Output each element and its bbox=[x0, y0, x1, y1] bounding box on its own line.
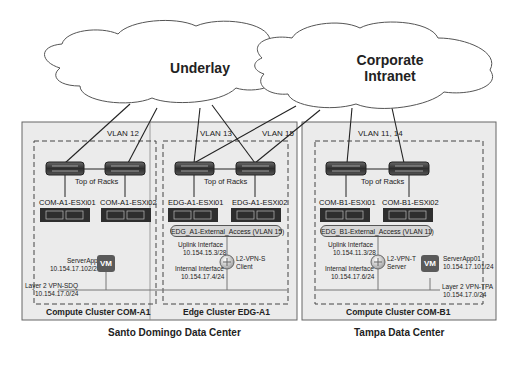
edg-a1-router-line1: L2-VPN-S bbox=[236, 255, 265, 263]
edg-a1-uplink-ip: 10.154.15.3/28 bbox=[183, 249, 226, 257]
vm-serverapp01-ip: 10.154.17.101/24 bbox=[443, 263, 494, 271]
tor-label-com-a1: Top of Racks bbox=[75, 177, 118, 186]
tor-label-com-b1: Top of Racks bbox=[361, 177, 404, 186]
vm-serverapp02-ip: 10.154.17.102/24 bbox=[50, 265, 101, 273]
corporate-intranet-label-line2: Intranet bbox=[340, 68, 440, 85]
edg-a1-internal-ip: 10.154.17.4/24 bbox=[181, 273, 224, 281]
host-com-a1-esxi01: COM-A1-ESXi01 bbox=[39, 198, 96, 207]
host-com-b1-esxi02: COM-B1-ESXi02 bbox=[382, 198, 439, 207]
com-b1-internal-ip: 10.154.17.6/24 bbox=[331, 273, 374, 281]
host-com-b1-esxi01: COM-B1-ESXi01 bbox=[319, 198, 376, 207]
cluster-name-com-b1: Compute Cluster COM-B1 bbox=[346, 307, 450, 317]
vlan-label-edg-a1-15: VLAN 15 bbox=[262, 129, 294, 138]
host-edg-a1-esxi02: EDG-A1-ESXi02 bbox=[232, 198, 287, 207]
vm-serverapp02-badge: VM bbox=[97, 255, 115, 272]
edg-a1-internal-label: Internal Interface bbox=[175, 265, 224, 273]
underlay-cloud-label: Underlay bbox=[150, 60, 250, 77]
tor-label-edg-a1: Top of Racks bbox=[204, 177, 247, 186]
com-b1-internal-label: Internal Interface bbox=[325, 265, 374, 273]
com-b1-uplink-ip: 10.154.11.3/28 bbox=[333, 249, 376, 257]
edg-a1-uplink-label: Uplink Interface bbox=[178, 241, 223, 249]
vlan-label-com-b1: VLAN 11, 14 bbox=[358, 129, 403, 138]
host-com-a1-esxi02: COM-A1-ESXi02 bbox=[100, 198, 157, 207]
vm-serverapp01-name: ServerApp01 bbox=[443, 255, 481, 263]
dc-name-santo-domingo: Santo Domingo Data Center bbox=[108, 327, 241, 338]
corporate-intranet-label-line1: Corporate bbox=[340, 52, 440, 69]
segment-tpa-name: Layer 2 VPN-TPA bbox=[442, 283, 493, 291]
com-b1-router-line1: L2-VPN-T bbox=[387, 255, 416, 263]
portgroup-edg-b1-external: EDG_B1-External_Access (VLAN 11) bbox=[320, 225, 432, 237]
cluster-name-edg-a1: Edge Cluster EDG-A1 bbox=[183, 307, 270, 317]
edg-a1-router-line2: Client bbox=[236, 263, 253, 271]
vlan-label-com-a1: VLAN 12 bbox=[107, 129, 139, 138]
vm-serverapp01-badge: VM bbox=[421, 255, 439, 272]
portgroup-edg-a1-external: EDG_A1-External_Access (VLAN 15) bbox=[170, 225, 282, 237]
vlan-label-edg-a1-13: VLAN 13 bbox=[200, 129, 232, 138]
dc-name-tampa: Tampa Data Center bbox=[354, 327, 444, 338]
host-edg-a1-esxi01: EDG-A1-ESXi01 bbox=[168, 198, 223, 207]
com-b1-router-line2: Server bbox=[387, 263, 406, 271]
segment-sdq-subnet: 10.154.17.0/24 bbox=[35, 290, 78, 298]
com-b1-uplink-label: Uplink Interface bbox=[328, 241, 373, 249]
segment-sdq-name: Layer 2 VPN-SDQ bbox=[25, 282, 78, 290]
cluster-name-com-a1: Compute Cluster COM-A1 bbox=[46, 307, 150, 317]
segment-tpa-subnet: 10.154.17.0/24 bbox=[443, 291, 486, 299]
vm-serverapp02-name: ServerApp02 bbox=[67, 257, 99, 265]
